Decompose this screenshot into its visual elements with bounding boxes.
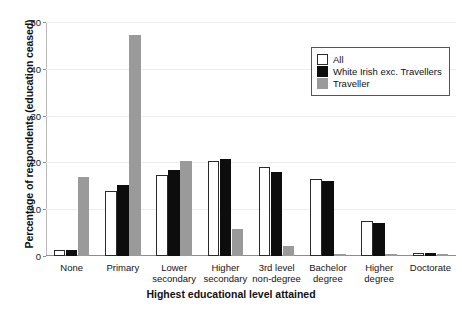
bar-group <box>259 22 295 256</box>
x-tick-label: None <box>46 262 97 273</box>
bar-traveller <box>385 254 397 256</box>
bar-group <box>54 22 90 256</box>
bar-white-irish <box>66 250 78 256</box>
bar-traveller <box>78 177 90 256</box>
bar-traveller <box>232 229 244 256</box>
y-tick-mark <box>43 256 46 257</box>
x-tick-label: 3rd levelnon-degree <box>251 262 302 284</box>
y-tick-label: 40 <box>30 63 41 74</box>
bar-all <box>413 253 425 256</box>
y-tick-mark <box>43 69 46 70</box>
bar-all <box>361 221 373 256</box>
legend-item-traveller: Traveller <box>317 78 442 89</box>
legend-label-all: All <box>333 54 344 65</box>
legend-item-white-irish: White Irish exc. Travellers <box>317 66 442 77</box>
chart-legend: All White Irish exc. Travellers Travelle… <box>311 47 450 96</box>
y-tick-label: 20 <box>30 157 41 168</box>
bar-chart-figure: Percentage of respondents (education cea… <box>0 0 462 313</box>
x-tick-label: Doctorate <box>405 262 456 273</box>
legend-swatch-white-irish-icon <box>317 66 328 77</box>
bar-white-irish <box>220 159 232 256</box>
bar-group <box>156 22 192 256</box>
bar-all <box>259 167 271 256</box>
y-tick-mark <box>43 116 46 117</box>
bar-all <box>54 250 66 256</box>
bar-group <box>208 22 244 256</box>
y-tick-label: 10 <box>30 204 41 215</box>
legend-swatch-all-icon <box>317 54 328 65</box>
bar-white-irish <box>271 172 283 256</box>
y-axis-line <box>46 22 47 256</box>
legend-swatch-traveller-icon <box>317 78 328 89</box>
x-tick-label: Higherdegree <box>354 262 405 284</box>
bar-traveller <box>180 161 192 256</box>
x-tick-label: Bachelordegree <box>302 262 353 284</box>
bar-group <box>105 22 141 256</box>
y-tick-mark <box>43 22 46 23</box>
bar-all <box>105 191 117 256</box>
bar-white-irish <box>425 253 437 256</box>
bar-white-irish <box>117 185 129 256</box>
legend-label-traveller: Traveller <box>333 78 370 89</box>
legend-item-all: All <box>317 54 442 65</box>
bar-all <box>208 161 220 256</box>
x-tick-label: Highersecondary <box>200 262 251 284</box>
bar-all <box>156 175 168 256</box>
bar-traveller <box>334 254 346 256</box>
bar-traveller <box>283 246 295 256</box>
bar-traveller <box>437 254 449 256</box>
y-axis-title: Percentage of respondents (education cea… <box>23 9 35 259</box>
legend-label-white-irish: White Irish exc. Travellers <box>333 66 442 77</box>
bar-white-irish <box>322 181 334 256</box>
bar-traveller <box>129 35 141 256</box>
y-tick-mark <box>43 162 46 163</box>
y-tick-label: 50 <box>30 17 41 28</box>
x-tick-label: Lowersecondary <box>149 262 200 284</box>
y-tick-mark <box>43 209 46 210</box>
y-tick-label: 30 <box>30 110 41 121</box>
bar-white-irish <box>373 223 385 256</box>
x-axis-title: Highest educational level attained <box>0 288 462 300</box>
y-tick-label: 0 <box>36 251 41 262</box>
bar-white-irish <box>168 170 180 256</box>
x-tick-label: Primary <box>97 262 148 273</box>
bar-all <box>310 179 322 256</box>
